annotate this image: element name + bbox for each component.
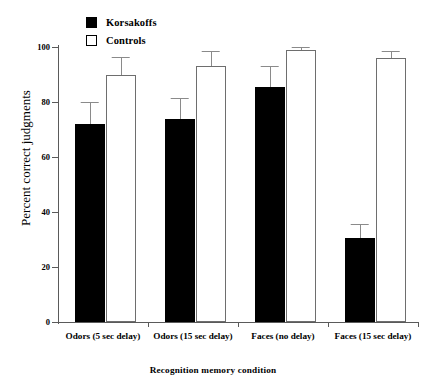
- plot-area: [58, 47, 418, 322]
- error-bar-cap: [260, 66, 279, 67]
- category-label-0: Odors (5 sec delay): [52, 331, 154, 341]
- legend-hollow-square-icon: [86, 35, 97, 46]
- error-bar-controls-1: [196, 51, 226, 66]
- category-label-2: Faces (no delay): [232, 331, 334, 341]
- error-bar-cap: [350, 224, 369, 225]
- x-tick-mark: [238, 322, 239, 327]
- chart-legend: Korsakoffs Controls: [86, 14, 236, 50]
- y-tick-mark: [52, 322, 58, 323]
- error-bar-controls-0: [106, 57, 136, 75]
- error-bar-stem: [121, 57, 122, 75]
- legend-item-korsakoffs: Korsakoffs: [86, 14, 236, 30]
- legend-filled-square-icon: [86, 17, 97, 28]
- error-bar-cap: [170, 98, 189, 99]
- error-bar-korsakoffs-0: [75, 102, 105, 124]
- y-tick-label: 0: [10, 318, 50, 326]
- error-bar-stem: [270, 66, 271, 87]
- error-bar-stem: [180, 98, 181, 119]
- x-tick-mark: [418, 322, 419, 327]
- error-bar-controls-2: [286, 47, 316, 50]
- bar-korsakoffs-3: [345, 238, 375, 322]
- error-bar-stem: [360, 224, 361, 238]
- legend-label-controls: Controls: [106, 35, 146, 46]
- error-bar-controls-3: [376, 51, 406, 58]
- legend-item-controls: Controls: [86, 32, 236, 48]
- bar-controls-2: [286, 50, 316, 322]
- x-axis-title: Recognition memory condition: [0, 365, 426, 375]
- error-bar-stem: [391, 51, 392, 58]
- category-label-3: Faces (15 sec delay): [322, 331, 424, 341]
- error-bar-stem: [90, 102, 91, 124]
- y-axis-title: Percent correct judgments: [18, 38, 34, 278]
- error-bar-korsakoffs-3: [345, 224, 375, 238]
- bar-korsakoffs-1: [165, 119, 195, 323]
- x-tick-mark: [328, 322, 329, 327]
- bar-korsakoffs-2: [255, 87, 285, 322]
- bar-controls-1: [196, 66, 226, 322]
- error-bar-cap: [381, 51, 400, 52]
- bar-chart-figure: Korsakoffs Controls 020406080100 Odors (…: [0, 0, 426, 385]
- bar-controls-0: [106, 75, 136, 323]
- category-label-1: Odors (15 sec delay): [142, 331, 244, 341]
- error-bar-cap: [80, 102, 99, 103]
- error-bar-cap: [111, 57, 130, 58]
- error-bar-korsakoffs-1: [165, 98, 195, 119]
- error-bar-stem: [211, 51, 212, 66]
- legend-label-korsakoffs: Korsakoffs: [106, 17, 157, 28]
- error-bar-korsakoffs-2: [255, 66, 285, 87]
- error-bar-cap: [201, 51, 220, 52]
- bar-korsakoffs-0: [75, 124, 105, 322]
- error-bar-cap: [291, 47, 310, 48]
- bar-controls-3: [376, 58, 406, 322]
- x-tick-mark: [148, 322, 149, 327]
